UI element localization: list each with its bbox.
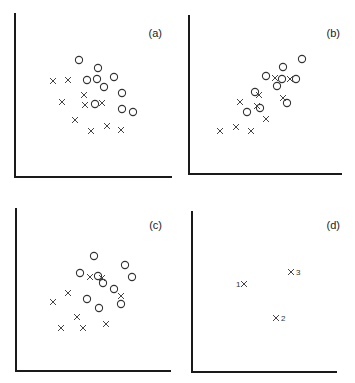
circle-marker	[121, 261, 128, 268]
circle-marker	[292, 75, 299, 82]
circle-marker	[94, 64, 101, 71]
circle-marker	[118, 105, 125, 112]
circle-marker	[283, 99, 290, 106]
circle-marker	[243, 108, 250, 115]
circle-marker	[278, 75, 285, 82]
panel-b	[189, 15, 342, 174]
circle-marker	[129, 108, 136, 115]
circle-marker	[273, 82, 280, 89]
circle-marker	[279, 63, 286, 70]
cross-marker	[280, 95, 286, 101]
panel-c	[16, 208, 171, 371]
cross-marker	[118, 293, 124, 299]
cross-marker	[59, 99, 65, 105]
circle-marker	[251, 88, 258, 95]
scatter-figure: 123 (a) (b) (c) (d)	[0, 0, 355, 383]
cross-marker	[118, 127, 124, 133]
panel-a-label: (a)	[149, 27, 162, 39]
cross-marker	[72, 117, 78, 123]
point-label: 2	[281, 314, 286, 323]
cross-marker	[81, 92, 87, 98]
panel-c-label: (c)	[149, 219, 162, 231]
circle-marker	[93, 75, 100, 82]
cross-marker	[65, 77, 71, 83]
cross-marker	[87, 274, 93, 280]
panel-b-label: (b)	[327, 27, 340, 39]
axes	[189, 15, 342, 174]
cross-marker	[254, 103, 260, 109]
cross-marker	[82, 102, 88, 108]
cross-marker	[248, 128, 254, 134]
circle-marker	[118, 89, 125, 96]
circle-marker	[83, 76, 90, 83]
circle-marker	[75, 56, 82, 63]
cross-marker	[217, 128, 223, 134]
cross-marker	[80, 325, 86, 331]
cross-marker: 1	[236, 280, 247, 289]
circle-marker	[83, 295, 90, 302]
cross-marker: 2	[273, 314, 286, 323]
circle-marker	[110, 285, 117, 292]
axes	[192, 211, 337, 372]
circle-marker	[262, 72, 269, 79]
cross-marker: 3	[288, 268, 301, 277]
circle-marker	[298, 55, 305, 62]
circle-marker	[110, 73, 117, 80]
cross-marker	[272, 75, 278, 81]
circle-marker	[100, 83, 107, 90]
cross-marker	[50, 299, 56, 305]
cross-marker	[88, 128, 94, 134]
cross-marker	[104, 123, 110, 129]
axes	[16, 208, 171, 371]
panel-d-label: (d)	[327, 219, 340, 231]
circle-marker	[91, 100, 98, 107]
cross-marker	[103, 321, 109, 327]
circle-marker	[90, 252, 97, 259]
cross-marker	[263, 116, 269, 122]
cross-marker	[99, 100, 105, 106]
circle-marker	[99, 279, 106, 286]
circle-marker	[95, 304, 102, 311]
panel-d: 123	[192, 211, 337, 372]
circle-marker	[128, 273, 135, 280]
circle-marker	[76, 269, 83, 276]
cross-marker	[65, 290, 71, 296]
circle-marker	[117, 300, 124, 307]
cross-marker	[50, 78, 56, 84]
point-label: 3	[296, 268, 301, 277]
point-label: 1	[236, 280, 241, 289]
cross-marker	[237, 99, 243, 105]
cross-marker	[58, 325, 64, 331]
cross-marker	[74, 314, 80, 320]
cross-marker	[233, 124, 239, 130]
